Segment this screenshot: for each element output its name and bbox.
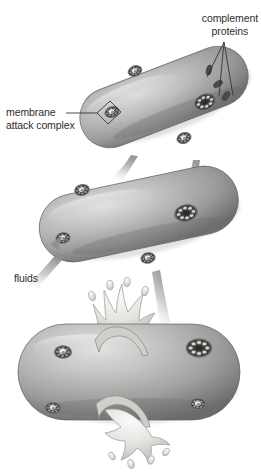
stage-1-complement-proteins-assemble — [66, 37, 260, 162]
fluid-droplet — [127, 459, 135, 469]
stage-2-fluids-enter-pores — [26, 155, 246, 326]
fluid-arrow — [113, 155, 138, 182]
membrane-attack-complex-pore-open — [186, 338, 213, 357]
membrane-attack-complex-pore — [45, 402, 61, 414]
illustration-canvas — [0, 0, 261, 472]
fluids-label: fluids — [14, 272, 38, 285]
fluid-droplet — [87, 290, 96, 302]
fluid-droplet — [161, 447, 171, 457]
membrane-attack-complex-pore — [175, 130, 193, 146]
stage-3-cell-lysis — [18, 277, 240, 469]
membrane-attack-complex-label: membrane attack complex — [6, 106, 75, 131]
fluid-arrow — [152, 270, 170, 326]
complement-lysis-figure: complement proteins membrane attack comp… — [0, 0, 261, 472]
fluid-droplet — [123, 277, 130, 287]
fluid-droplet — [106, 280, 114, 290]
membrane-attack-complex-pore — [54, 345, 72, 359]
fluid-droplet — [107, 451, 116, 461]
complement-proteins-label: complement proteins — [202, 12, 258, 37]
membrane-attack-complex-pore — [190, 398, 206, 410]
